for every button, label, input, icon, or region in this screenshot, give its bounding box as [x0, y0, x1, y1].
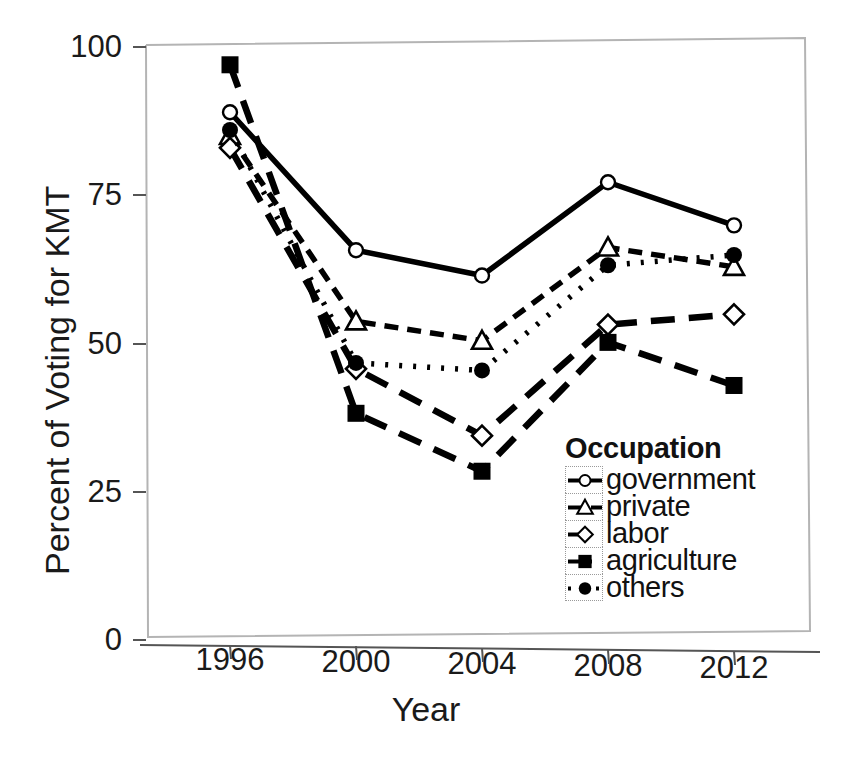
legend-marker-filled-square-icon [565, 547, 603, 574]
data-point-agriculture-2000 [348, 405, 365, 422]
series-line-private [230, 136, 734, 341]
data-point-others-2004 [474, 362, 490, 378]
legend-marker-open-diamond-icon [565, 520, 603, 547]
plot-area [0, 0, 852, 758]
data-point-government-2004 [475, 269, 489, 283]
legend-item-private[interactable]: private [565, 493, 755, 520]
legend-item-others[interactable]: others [565, 574, 755, 601]
legend-item-government[interactable]: government [565, 466, 755, 493]
legend-marker-open-circle-icon [565, 466, 603, 493]
legend-label: others [606, 574, 684, 601]
data-point-others-2012 [726, 247, 742, 263]
chart-figure: Percent of Voting for KMT Year 100 75 50… [0, 0, 852, 758]
data-point-agriculture-2012 [726, 377, 743, 394]
data-point-government-2012 [727, 218, 741, 232]
legend-items: governmentprivatelaboragricultureothers [565, 466, 755, 601]
legend-marker-filled-circle-icon [565, 574, 603, 601]
data-point-private-2004 [472, 331, 492, 349]
legend-title: Occupation [565, 432, 755, 465]
data-point-others-2008 [600, 257, 616, 273]
series-private [220, 126, 744, 349]
legend-label: agriculture [606, 547, 737, 574]
legend: Occupation governmentprivatelaboragricul… [565, 432, 755, 601]
legend-item-agriculture[interactable]: agriculture [565, 547, 755, 574]
data-point-government-2000 [349, 243, 363, 257]
data-point-others-2000 [348, 355, 364, 371]
data-point-government-1996 [223, 105, 237, 119]
legend-label: private [606, 493, 690, 520]
data-point-government-2008 [601, 175, 615, 189]
data-point-agriculture-1996 [222, 56, 239, 73]
legend-item-labor[interactable]: labor [565, 520, 755, 547]
data-point-agriculture-2004 [474, 463, 491, 480]
legend-label: government [606, 466, 755, 493]
series-line-government [230, 112, 734, 275]
legend-label: labor [606, 520, 669, 547]
data-point-others-1996 [222, 122, 238, 138]
data-point-labor-2012 [724, 304, 744, 324]
legend-marker-open-triangle-icon [565, 493, 603, 520]
data-point-agriculture-2008 [600, 334, 617, 351]
series-layer [220, 56, 744, 479]
